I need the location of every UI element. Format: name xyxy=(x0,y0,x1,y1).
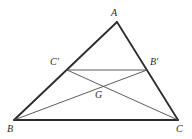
centroid-label-g: G xyxy=(95,90,102,100)
geometry-figure: A B C C' B' G xyxy=(0,0,192,139)
vertex-label-c: C xyxy=(176,124,183,134)
segment-side-AC xyxy=(117,22,178,120)
midpoint-label-b-prime: B' xyxy=(150,57,158,67)
segment-side-AB xyxy=(14,22,117,120)
segment-median-CCp xyxy=(67,70,178,120)
segment-median-BBp xyxy=(14,70,147,120)
vertex-label-b: B xyxy=(7,124,13,134)
midpoint-label-c-prime: C' xyxy=(50,57,59,67)
triangle-diagram-canvas xyxy=(0,0,192,139)
vertex-label-a: A xyxy=(111,8,117,18)
